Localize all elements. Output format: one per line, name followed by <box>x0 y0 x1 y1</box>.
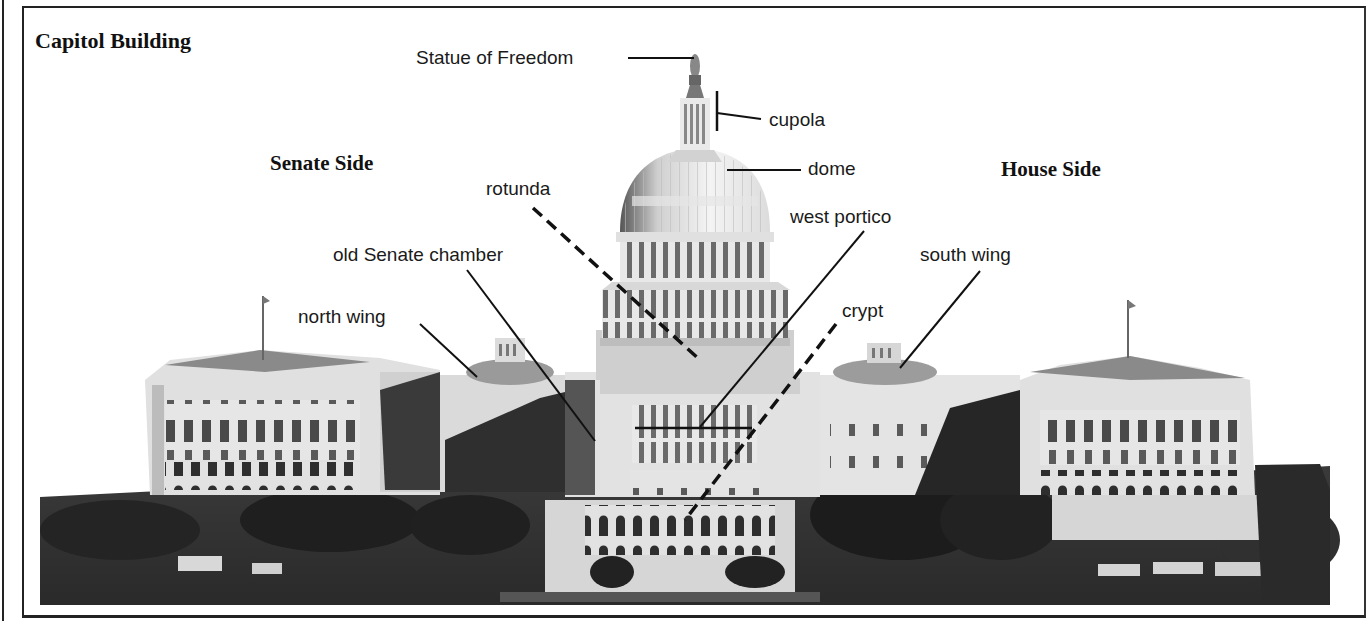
west-terrace <box>500 500 820 602</box>
cupola-leader <box>717 113 761 119</box>
dome <box>596 54 794 380</box>
label-statue-of-freedom: Statue of Freedom <box>416 47 573 69</box>
label-cupola: cupola <box>769 109 825 131</box>
senate-side-heading: Senate Side <box>270 151 373 176</box>
south-wing <box>820 343 1020 495</box>
capitol-illustration <box>0 0 1371 621</box>
house-side-heading: House Side <box>1001 157 1101 182</box>
label-old-senate-chamber: old Senate chamber <box>333 244 503 266</box>
label-rotunda: rotunda <box>486 178 550 200</box>
label-west-portico: west portico <box>790 206 891 228</box>
label-north-wing: north wing <box>298 306 386 328</box>
label-dome: dome <box>808 158 856 180</box>
figure-title: Capitol Building <box>35 28 191 54</box>
label-crypt: crypt <box>842 300 883 322</box>
label-south-wing: south wing <box>920 244 1011 266</box>
central-block <box>565 372 820 497</box>
south-wing-leader <box>900 271 980 368</box>
